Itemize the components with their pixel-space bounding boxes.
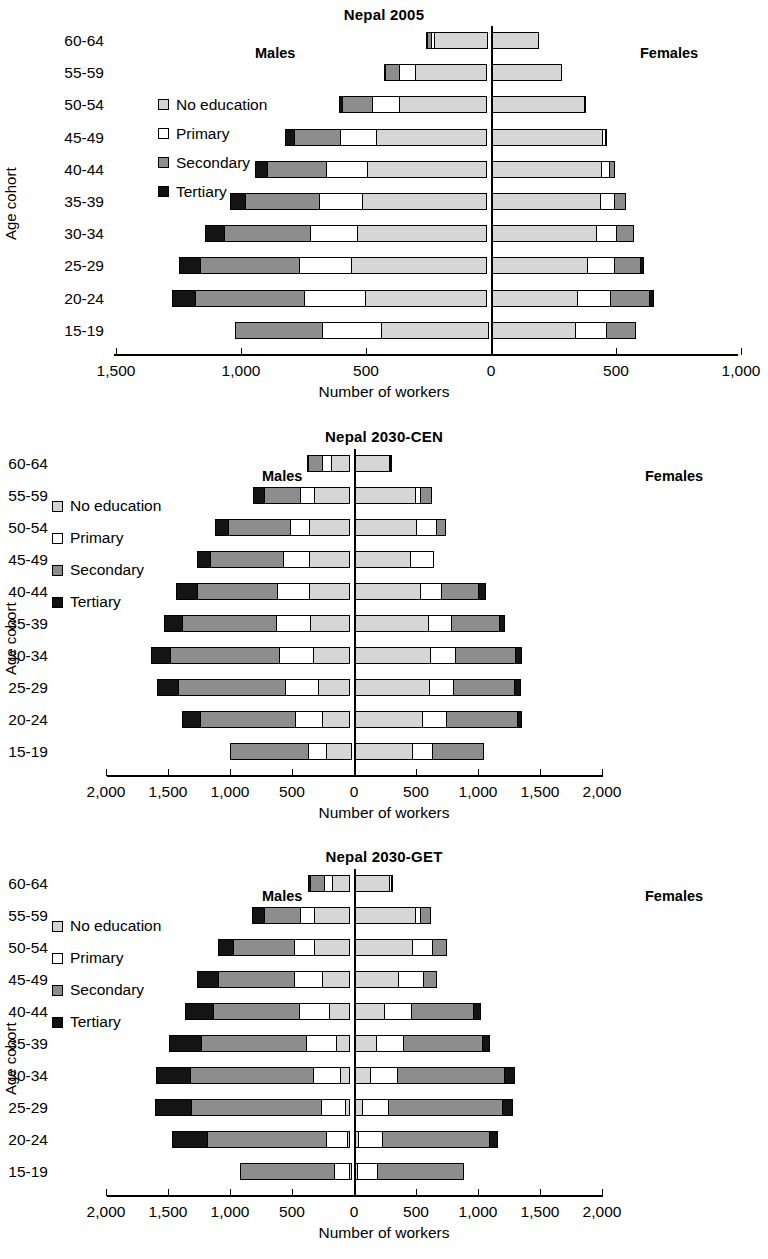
bar-segment-male-secondary [267,161,327,178]
females-label: Females [640,45,698,61]
bar-segment-male-primary [372,96,400,113]
legend-item-none[interactable]: No education [52,910,161,942]
legend-swatch-tertiary-icon [52,1017,63,1028]
bar-row-female [354,711,526,728]
x-axis-tick [478,769,479,776]
legend-item-primary[interactable]: Primary [52,942,161,974]
bar-segment-male-tertiary [185,1003,215,1020]
bar-row-female [354,743,487,760]
bar-segment-female-secondary [432,939,447,956]
cohort-label: 20-24 [8,712,48,728]
bar-segment-female-primary [412,743,433,760]
bar-row-female [491,32,539,49]
legend-item-secondary[interactable]: Secondary [52,974,161,1006]
bar-row-male [172,1131,354,1148]
bar-row-female [491,96,587,113]
bar-row-female [354,487,434,504]
bar-segment-female-none [491,161,602,178]
bar-segment-male-tertiary [156,1067,191,1084]
legend: No educationPrimarySecondaryTertiary [52,490,161,618]
cohort-label: 50-54 [8,940,48,956]
bar-segment-male-none [340,1067,351,1084]
x-axis-tick-label: 500 [403,783,429,801]
bar-segment-male-none [313,647,350,664]
bar-segment-male-secondary [264,487,301,504]
bar-segment-male-primary [399,64,417,81]
bar-segment-male-secondary [191,1099,322,1116]
bar-row-male [308,875,354,892]
bar-row-male [172,290,491,307]
bar-segment-male-primary [322,322,382,339]
x-axis-tick-label: 500 [279,783,305,801]
cohort-label: 25-29 [8,680,48,696]
bar-row-female [354,1163,466,1180]
cohort-label: 20-24 [64,291,104,307]
bar-segment-male-none [314,487,350,504]
legend-item-tertiary[interactable]: Tertiary [52,586,161,618]
cohort-label: 40-44 [8,1004,48,1020]
bar-segment-female-none [491,225,597,242]
bar-segment-male-secondary [230,743,309,760]
legend-item-none[interactable]: No education [52,490,161,522]
bar-segment-male-tertiary [164,615,183,632]
bar-segment-female-none [354,907,416,924]
x-axis-tick-label: 0 [487,362,496,380]
bar-segment-male-secondary [182,615,277,632]
bar-row-female [354,971,439,988]
legend-item-tertiary[interactable]: Tertiary [52,1006,161,1038]
cohort-label: 30-34 [8,1068,48,1084]
x-axis-tick [366,348,367,355]
bar-segment-female-tertiary [514,679,521,696]
x-axis-tick [354,769,355,776]
bar-segment-female-tertiary [502,1099,513,1116]
bar-segment-male-secondary [195,290,305,307]
y-axis-label: Age cohort [2,167,19,240]
bar-row-female [354,907,433,924]
bar-segment-male-secondary [310,875,325,892]
bar-segment-male-primary [334,1163,350,1180]
x-axis-tick-label: 500 [403,1203,429,1221]
cohort-label: 30-34 [8,648,48,664]
x-axis-title: Number of workers [0,804,768,822]
legend-item-none[interactable]: No education [158,90,267,119]
bar-segment-female-secondary [382,1131,490,1148]
cohort-label: 50-54 [64,97,104,113]
chart-panel-2: Nepal 2030-CENAge cohortMalesFemalesNo e… [0,420,768,840]
bar-segment-female-secondary [391,875,393,892]
legend-item-primary[interactable]: Primary [52,522,161,554]
x-axis-tick [241,348,242,355]
x-axis-tick-label: 2,000 [583,1203,622,1221]
bar-segment-male-none [332,875,351,892]
bar-segment-male-secondary [213,1003,300,1020]
x-axis-tick [478,1189,479,1196]
bar-segment-male-primary [326,1131,349,1148]
legend-item-secondary[interactable]: Secondary [52,554,161,586]
bar-segment-female-none [354,583,421,600]
x-axis-tick [540,1189,541,1196]
legend-swatch-secondary-icon [52,985,63,996]
legend-item-primary[interactable]: Primary [158,119,267,148]
bar-segment-female-primary [412,939,434,956]
bar-segment-male-tertiary [157,679,179,696]
cohort-label: 15-19 [8,744,48,760]
bar-segment-male-none [336,1035,351,1052]
bar-row-male [215,519,355,536]
bar-segment-male-primary [277,583,310,600]
x-axis-tick [106,769,107,776]
cohort-label: 25-29 [8,1100,48,1116]
bar-segment-female-secondary [436,519,446,536]
legend-label: Secondary [70,981,144,999]
bar-segment-male-tertiary [169,1035,202,1052]
bar-segment-female-primary [577,290,611,307]
legend-label: No education [70,497,161,515]
x-axis-title: Number of workers [0,1224,768,1242]
bar-segment-male-primary [304,290,367,307]
bar-segment-male-none [376,129,487,146]
bar-segment-male-secondary [342,96,373,113]
x-axis-tick [292,1189,293,1196]
bar-segment-female-tertiary [649,290,654,307]
bar-row-female [354,583,489,600]
bar-segment-male-none [309,551,350,568]
legend-item-secondary[interactable]: Secondary [158,148,267,177]
bar-segment-male-tertiary [172,290,196,307]
